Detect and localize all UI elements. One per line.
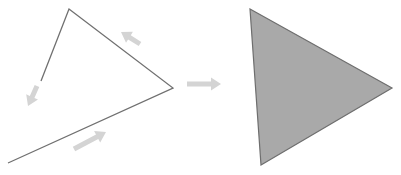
- path-fill-diagram: [0, 0, 401, 175]
- transform-arrow-icon: [187, 78, 221, 91]
- direction-arrows: [26, 32, 141, 151]
- filled-triangle-shape: [250, 9, 392, 165]
- arrow-along-top-right-edge-icon: [121, 32, 141, 46]
- right-arrow-icon: [187, 78, 221, 91]
- arrow-along-bottom-edge-icon: [73, 131, 106, 151]
- arrow-along-left-edge-icon: [26, 85, 39, 106]
- filled-triangle: [250, 9, 392, 165]
